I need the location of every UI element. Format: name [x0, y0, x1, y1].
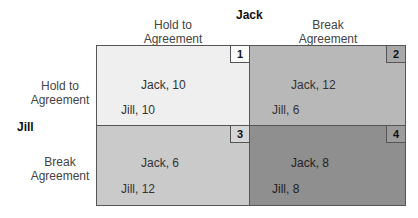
payoff-cell-1: 1 Jack, 10 Jill, 10 [96, 45, 250, 126]
payoff-cell-2: 2 Jack, 12 Jill, 6 [249, 45, 406, 126]
jack-payoff: Jack, 8 [291, 156, 329, 170]
jill-payoff: Jill, 8 [272, 182, 299, 196]
jill-payoff: Jill, 12 [121, 182, 155, 196]
jill-payoff: Jill, 10 [121, 103, 155, 117]
column-strategy-hold: Hold to Agreement [138, 18, 208, 46]
payoff-cell-3: 3 Jack, 6 Jill, 12 [96, 125, 250, 206]
jack-payoff: Jack, 6 [141, 156, 179, 170]
column-player-label: Jack [236, 8, 263, 22]
column-strategy-break: Break Agreement [293, 18, 363, 46]
payoff-cell-4: 4 Jack, 8 Jill, 8 [249, 125, 406, 206]
row-strategy-break: Break Agreement [28, 155, 92, 183]
row-player-label: Jill [17, 120, 34, 134]
cell-number: 3 [230, 125, 250, 143]
jack-payoff: Jack, 12 [291, 78, 336, 92]
jill-payoff: Jill, 6 [272, 103, 299, 117]
row-strategy-hold: Hold to Agreement [28, 79, 92, 107]
cell-number: 4 [386, 125, 406, 143]
cell-number: 2 [386, 45, 406, 63]
cell-number: 1 [230, 45, 250, 63]
jack-payoff: Jack, 10 [141, 78, 186, 92]
